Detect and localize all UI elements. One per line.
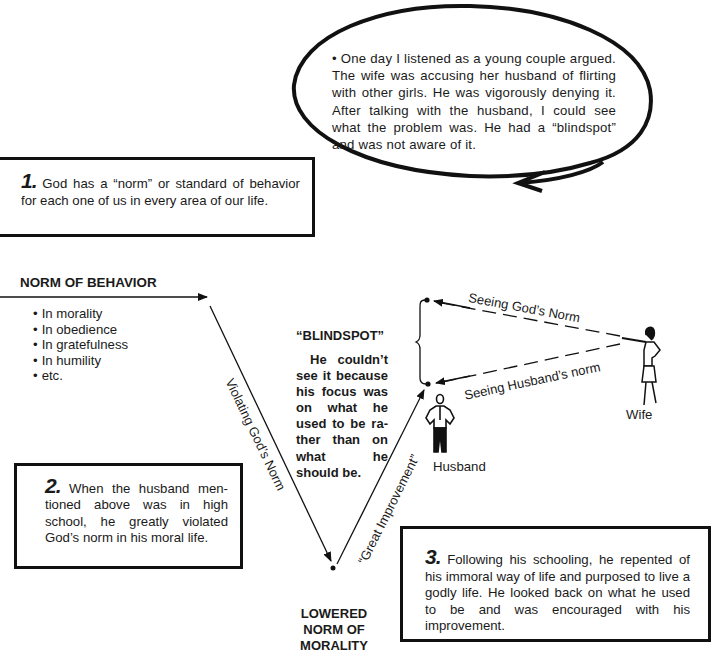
point-2-box: 2. When the husband men-tioned above was…	[14, 463, 243, 569]
point-number: 3.	[425, 545, 441, 568]
point-text: When the husband men-tioned above was in…	[45, 481, 228, 545]
seeing-gods-norm-arrow	[434, 301, 470, 308]
seeing-husbands-norm-arrow	[436, 376, 470, 383]
norm-of-behavior-title: NORM OF BEHAVIOR	[20, 275, 157, 290]
gods-norm-dot	[424, 297, 429, 302]
list-item: In morality	[33, 306, 128, 322]
wife-label: Wife	[626, 407, 652, 422]
list-item: etc.	[33, 368, 128, 384]
list-item: In gratefulness	[33, 337, 128, 353]
point-number: 2.	[45, 474, 61, 497]
story-text: • One day I listened as a young couple a…	[332, 50, 616, 153]
blindspot-text: He couldn’t see it because his focus was…	[296, 352, 388, 481]
point-3-box: 3. Following his schooling, he repented …	[400, 526, 711, 642]
husband-label: Husband	[433, 459, 486, 474]
blindspot-title: “BLINDSPOT”	[296, 328, 384, 343]
point-text: Following his schooling, he repented of …	[425, 552, 690, 633]
blindspot-bracket	[416, 300, 426, 384]
point-text: God has a “norm” or standard of behavior…	[21, 176, 300, 208]
lowered-norm-dot	[331, 566, 336, 571]
list-item: In humility	[33, 353, 128, 369]
point-1-box: 1. God has a “norm” or standard of behav…	[0, 157, 315, 237]
point-number: 1.	[21, 169, 37, 192]
husband-figure	[426, 395, 454, 453]
list-item: In obedience	[33, 322, 128, 338]
wife-figure	[622, 327, 660, 405]
lowered-norm-label: LOWERED NORM OF MORALITY	[294, 606, 374, 655]
husbands-norm-dot	[425, 381, 430, 386]
norm-areas-list: In morality In obedience In gratefulness…	[33, 306, 128, 384]
